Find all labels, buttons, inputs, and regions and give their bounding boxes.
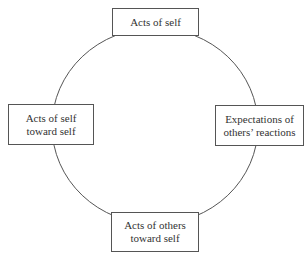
node-label-line-2: others’ reactions <box>223 126 295 139</box>
node-acts-of-self-toward-self: Acts of self toward self <box>8 104 94 145</box>
node-label-line-2: toward self <box>26 125 75 138</box>
node-label-line-1: Acts of others <box>124 219 186 232</box>
node-acts-of-self: Acts of self <box>112 8 199 36</box>
node-label-line-1: Expectations of <box>225 113 294 126</box>
node-label-line-2: toward self <box>130 232 179 245</box>
node-label: Acts of self <box>130 16 181 29</box>
node-acts-of-others-toward-self: Acts of others toward self <box>111 212 199 252</box>
node-expectations-of-others-reactions: Expectations of others’ reactions <box>215 105 304 146</box>
node-label-line-1: Acts of self <box>26 112 77 125</box>
